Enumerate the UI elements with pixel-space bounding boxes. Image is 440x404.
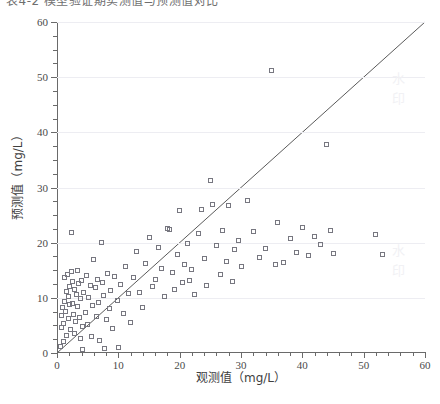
x-tick-minor: [192, 352, 193, 356]
y-tick-minor: [53, 160, 57, 161]
scatter-point: [143, 261, 148, 266]
scatter-point: [63, 309, 68, 314]
scatter-point: [189, 267, 194, 272]
scatter-point: [300, 225, 305, 230]
x-tick-minor: [131, 352, 132, 356]
scatter-point: [170, 270, 175, 275]
y-tick-minor: [53, 215, 57, 216]
scatter-point: [214, 243, 219, 248]
y-tick-label: 40: [37, 126, 48, 138]
scatter-point: [85, 322, 90, 327]
scatter-point: [72, 331, 77, 336]
scatter-point: [121, 311, 126, 316]
scatter-point: [75, 268, 80, 273]
gridline-horizontal: [57, 22, 425, 23]
scatter-point: [226, 203, 231, 208]
scatter-point: [89, 334, 94, 339]
scatter-point: [116, 345, 121, 350]
scatter-point: [78, 336, 83, 341]
scatter-point: [204, 283, 209, 288]
x-tick-minor: [204, 352, 205, 356]
scatter-point: [64, 289, 69, 294]
scatter-point: [294, 250, 299, 255]
scatter-point: [69, 269, 74, 274]
scatter-point: [66, 316, 71, 321]
x-tick-major: [364, 352, 365, 358]
y-tick-minor: [53, 119, 57, 120]
y-tick-minor: [53, 201, 57, 202]
scatter-point: [101, 293, 106, 298]
scatter-point: [185, 241, 190, 246]
x-tick-minor: [94, 352, 95, 356]
scatter-point: [77, 315, 82, 320]
scatter-point: [187, 278, 192, 283]
scatter-point: [306, 253, 311, 258]
y-tick-label: 10: [37, 292, 48, 304]
scatter-point: [269, 68, 274, 73]
scatter-point: [94, 314, 99, 319]
scatter-point: [115, 298, 120, 303]
figure-root: 表4-2 模型验证期实测值与预测值对比 01020304050600102030…: [0, 0, 440, 404]
scatter-point: [245, 198, 250, 203]
scatter-point: [373, 232, 378, 237]
x-tick-minor: [376, 352, 377, 356]
scatter-point: [107, 306, 112, 311]
scatter-point: [182, 262, 187, 267]
scatter-point: [263, 246, 268, 251]
scatter-point: [324, 142, 329, 147]
x-tick-minor: [339, 352, 340, 356]
scatter-point: [97, 338, 102, 343]
x-tick-major: [118, 352, 119, 358]
scatter-point: [159, 266, 164, 271]
scatter-point: [81, 290, 86, 295]
scatter-point: [78, 296, 83, 301]
scatter-point: [175, 252, 180, 257]
y-tick-minor: [53, 91, 57, 92]
y-tick-minor: [53, 312, 57, 313]
scatter-point: [131, 275, 136, 280]
scatter-point: [71, 312, 76, 317]
y-tick-major: [51, 132, 57, 133]
scatter-point: [224, 259, 229, 264]
scatter-point: [167, 227, 172, 232]
scatter-point: [96, 300, 101, 305]
x-tick-major: [241, 352, 242, 358]
scatter-point: [102, 346, 107, 351]
x-tick-minor: [290, 352, 291, 356]
y-tick-minor: [53, 36, 57, 37]
scatter-point: [59, 325, 64, 330]
x-tick-minor: [253, 352, 254, 356]
x-tick-minor: [167, 352, 168, 356]
x-axis-title: 观测值（mg/L）: [57, 368, 425, 385]
y-tick-label: 20: [37, 237, 48, 249]
scatter-point: [275, 220, 280, 225]
scatter-point: [239, 264, 244, 269]
scatter-point: [202, 256, 207, 261]
scatter-point: [100, 280, 105, 285]
scatter-point: [61, 321, 66, 326]
y-tick-minor: [53, 174, 57, 175]
scatter-point: [80, 347, 85, 352]
scatter-point: [69, 230, 74, 235]
scatter-point: [218, 272, 223, 277]
x-tick-minor: [69, 352, 70, 356]
scatter-point: [112, 274, 117, 279]
x-tick-major: [57, 352, 58, 358]
scatter-point: [288, 236, 293, 241]
y-tick-major: [51, 298, 57, 299]
scatter-point: [210, 202, 215, 207]
scatter-point: [236, 238, 241, 243]
y-tick-minor: [53, 229, 57, 230]
scatter-point: [70, 301, 75, 306]
x-tick-major: [180, 352, 181, 358]
scatter-point: [331, 251, 336, 256]
watermark-fragment: 印: [392, 88, 405, 107]
scatter-point: [70, 279, 75, 284]
gridline-horizontal: [57, 188, 425, 189]
y-tick-minor: [53, 325, 57, 326]
y-tick-minor: [53, 339, 57, 340]
x-tick-minor: [229, 352, 230, 356]
scatter-point: [147, 235, 152, 240]
scatter-point: [66, 294, 71, 299]
scatter-point: [156, 245, 161, 250]
